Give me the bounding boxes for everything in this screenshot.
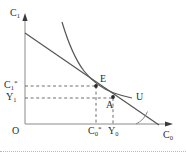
curve-label-u: U [136,92,143,102]
x-tick-c0-base: C [88,125,95,136]
point-label-e: E [100,74,106,84]
point-marker-e [94,84,98,88]
point-label-a: A [106,100,113,110]
y-axis-label-base: C [10,7,17,18]
x-tick-label-c0-star: C0* [88,126,101,136]
x-tick-y0-sub: 0 [115,130,118,137]
bottom-divider [0,151,186,152]
y-axis [22,13,27,124]
guide-lines [25,86,113,124]
y-tick-label-c1-star: C1* [4,80,17,90]
intertemporal-consumption-diagram: C1 C0 O C1* Y1 C0* Y0 E A U [0,0,186,153]
x-axis-label: C0 [163,130,173,140]
y-tick-y1-sub: 1 [13,96,16,103]
x-axis-label-sub: 0 [170,134,173,141]
y-tick-label-y1: Y1 [6,92,16,102]
y-tick-c1-sup: * [14,79,18,87]
y-axis-label-sub: 1 [17,12,20,19]
x-tick-c0-sup: * [98,125,102,133]
x-axis-label-base: C [163,129,170,140]
origin-label: O [12,126,19,136]
y-tick-c1-base: C [4,79,11,90]
y-axis-label: C1 [10,8,20,18]
x-tick-label-y0: Y0 [108,126,118,136]
